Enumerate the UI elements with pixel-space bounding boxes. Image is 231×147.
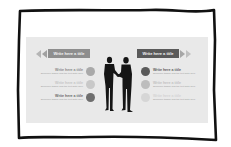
chevron-right-icon <box>186 50 191 58</box>
left-item-3: Write here a title Someone tagline and t… <box>38 93 95 102</box>
right-title: Write here a title <box>137 49 179 58</box>
item-subtitle: Someone tagline and the text write here <box>41 98 83 101</box>
chevron-left-icon <box>42 50 47 58</box>
left-item-2: Write here a title Someone tagline and t… <box>38 80 95 89</box>
circle-icon <box>141 93 150 102</box>
chevron-right-icon <box>180 50 185 58</box>
circle-icon <box>86 93 95 102</box>
chevron-left-icon <box>36 50 41 58</box>
item-subtitle: Someone tagline and the text write here <box>153 98 195 101</box>
circle-icon <box>86 67 95 76</box>
left-item-1: Write here a title Someone tagline and t… <box>38 67 95 76</box>
circle-icon <box>141 67 150 76</box>
item-subtitle: Someone tagline and the text write here <box>153 72 195 75</box>
right-title-ribbon: Write here a title <box>137 49 191 58</box>
item-subtitle: Someone tagline and the text write here <box>41 85 83 88</box>
right-item-2: Write here a title Someone tagline and t… <box>141 80 201 89</box>
circle-icon <box>141 80 150 89</box>
circle-icon <box>86 80 95 89</box>
left-title: Write here a title <box>48 49 90 58</box>
item-subtitle: Someone tagline and the text write here <box>153 85 195 88</box>
item-subtitle: Someone tagline and the text write here <box>41 72 83 75</box>
left-title-ribbon: Write here a title <box>36 49 90 58</box>
infographic-slide: Write here a title Write here a title Wr… <box>26 37 208 123</box>
right-item-3: Write here a title Someone tagline and t… <box>141 93 201 102</box>
handshake-silhouette-icon <box>102 56 133 114</box>
right-item-1: Write here a title Someone tagline and t… <box>141 67 201 76</box>
